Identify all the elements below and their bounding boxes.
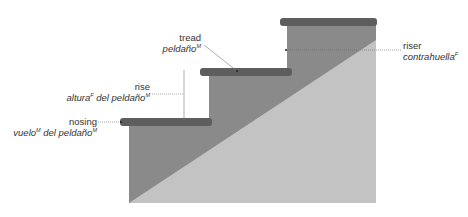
nosing-label-en: nosing xyxy=(2,116,97,127)
tread-leader-line xyxy=(204,45,237,71)
tread-label-en: tread xyxy=(150,32,201,43)
tread-label: tread peldañoM xyxy=(150,32,201,54)
rise-label-en: rise xyxy=(60,81,150,92)
riser-label-es: contrahuellaF xyxy=(403,51,458,62)
tread-leader-dot xyxy=(236,70,238,72)
tread-1 xyxy=(120,118,212,126)
riser-leader-dot xyxy=(285,49,287,51)
rise-label: rise alturaF del peldañoM xyxy=(60,81,150,103)
nosing-leader-dot xyxy=(120,121,122,123)
rise-label-es: alturaF del peldañoM xyxy=(60,92,150,103)
nosing-label-es: vueloM del peldañoM xyxy=(2,127,97,138)
riser-label-en: riser xyxy=(403,40,458,51)
riser-label: riser contrahuellaF xyxy=(403,40,458,62)
tread-label-es: peldañoM xyxy=(150,43,201,54)
tread-3 xyxy=(280,18,377,26)
tread-2 xyxy=(200,68,292,76)
nosing-label: nosing vueloM del peldañoM xyxy=(2,116,97,138)
staircase-diagram xyxy=(0,0,468,217)
